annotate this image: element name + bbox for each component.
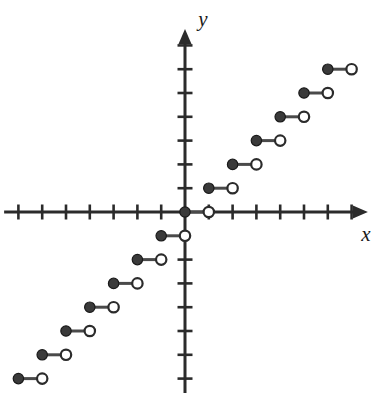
open-endpoint-marker [108, 302, 118, 312]
open-endpoint-marker [299, 112, 309, 122]
open-endpoint-marker [323, 88, 333, 98]
closed-endpoint-marker [251, 135, 261, 145]
closed-endpoint-marker [227, 159, 237, 169]
open-endpoint-marker [85, 326, 95, 336]
closed-endpoint-marker [323, 64, 333, 74]
closed-endpoint-marker [61, 326, 71, 336]
closed-endpoint-marker [204, 183, 214, 193]
open-endpoint-marker [251, 159, 261, 169]
plot-background [0, 0, 388, 413]
open-endpoint-marker [204, 207, 214, 217]
open-endpoint-marker [61, 350, 71, 360]
closed-endpoint-marker [85, 302, 95, 312]
closed-endpoint-marker [37, 350, 47, 360]
closed-endpoint-marker [108, 278, 118, 288]
open-endpoint-marker [275, 135, 285, 145]
x-axis-label: x [360, 222, 371, 246]
y-axis-label: y [196, 7, 208, 31]
closed-endpoint-marker [156, 231, 166, 241]
closed-endpoint-marker [13, 373, 23, 383]
open-endpoint-marker [37, 373, 47, 383]
closed-endpoint-marker [132, 254, 142, 264]
open-endpoint-marker [346, 64, 356, 74]
closed-endpoint-marker [299, 88, 309, 98]
closed-endpoint-marker [180, 207, 190, 217]
graph-canvas: x y [0, 0, 388, 413]
open-endpoint-marker [180, 231, 190, 241]
open-endpoint-marker [156, 254, 166, 264]
open-endpoint-marker [132, 278, 142, 288]
step-function-plot: x y [0, 0, 388, 413]
open-endpoint-marker [227, 183, 237, 193]
closed-endpoint-marker [275, 112, 285, 122]
